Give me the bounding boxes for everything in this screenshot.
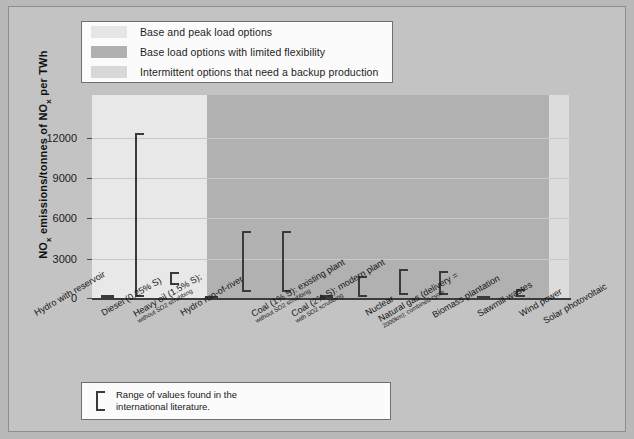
band-intermittent [549,95,569,299]
legend-label: Base load options with limited flexibili… [140,46,325,58]
gridline-9000 [92,178,569,179]
legend-label: Intermittent options that need a backup … [140,66,379,78]
range-bracket-icon [96,391,107,411]
y-axis-title: NOx emissions/tonnes of NOx per TWh [37,45,52,265]
gridline-6000 [92,218,569,219]
legend-item: Base load options with limited flexibili… [91,42,392,62]
chart-legend: Base and peak load options Base load opt… [81,21,393,83]
legend-swatch-base-limited [91,46,127,58]
chart-frame: Base and peak load options Base load opt… [8,6,626,432]
legend-label: Base and peak load options [140,26,272,38]
y-tick-label: 3000 [17,253,77,265]
y-tick-label: 6000 [17,212,77,224]
x-axis-labels: Hydro with reservoir Diesel (0.25% S) He… [9,299,625,394]
gridline-3000 [92,259,569,260]
footnote-box: Range of values found in the internation… [81,382,391,420]
gridline-12000 [92,138,569,139]
legend-item: Base and peak load options [91,22,392,42]
legend-swatch-base-peak [91,26,127,38]
legend-swatch-intermittent [91,66,127,78]
y-tick-label: 12000 [17,132,77,144]
legend-item: Intermittent options that need a backup … [91,62,392,82]
band-base-peak-load [92,95,207,299]
footnote-text: Range of values found in the internation… [116,389,237,413]
y-tick-label: 9000 [17,172,77,184]
